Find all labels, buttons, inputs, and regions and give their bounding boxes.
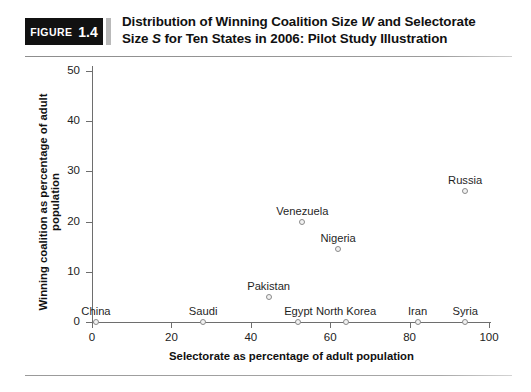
x-tick <box>410 322 411 328</box>
data-point-label: Pakistan <box>209 280 329 292</box>
data-point[interactable] <box>335 246 341 252</box>
x-tick-label: 80 <box>390 331 430 343</box>
x-tick <box>489 322 490 328</box>
data-point-label: Syria <box>405 305 525 317</box>
x-tick <box>171 322 172 328</box>
y-tick <box>86 71 92 72</box>
y-tick <box>86 272 92 273</box>
x-tick <box>330 322 331 328</box>
x-axis-line <box>92 322 491 323</box>
data-point[interactable] <box>299 219 305 225</box>
scatter-plot: 01020304050 020406080100 ChinaSaudiPakis… <box>0 0 531 392</box>
x-tick-label: 100 <box>469 331 509 343</box>
data-point[interactable] <box>415 319 421 325</box>
y-axis-title: Winning coalition as percentage of adult… <box>37 67 61 337</box>
data-point-label: Nigeria <box>278 232 398 244</box>
y-axis-line <box>92 66 93 323</box>
data-point-label: Russia <box>405 174 525 186</box>
data-point[interactable] <box>462 188 468 194</box>
y-tick <box>86 222 92 223</box>
data-point[interactable] <box>462 319 468 325</box>
data-point[interactable] <box>295 319 301 325</box>
data-point-label: Venezuela <box>242 205 362 217</box>
y-tick <box>86 171 92 172</box>
data-point[interactable] <box>266 294 272 300</box>
x-tick-label: 20 <box>151 331 191 343</box>
y-tick <box>86 121 92 122</box>
bottom-rule <box>25 375 512 376</box>
x-tick-label: 0 <box>72 331 112 343</box>
data-point[interactable] <box>343 319 349 325</box>
x-tick-label: 40 <box>231 331 271 343</box>
x-axis-title: Selectorate as percentage of adult popul… <box>92 350 491 362</box>
x-tick-label: 60 <box>310 331 350 343</box>
data-point[interactable] <box>200 319 206 325</box>
x-tick <box>251 322 252 328</box>
data-point[interactable] <box>93 319 99 325</box>
